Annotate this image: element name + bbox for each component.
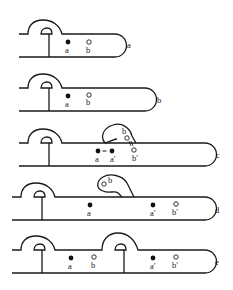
point-b-open bbox=[92, 255, 96, 259]
point-label-a: a bbox=[65, 99, 69, 109]
point-label-a-prime: a′ bbox=[150, 261, 156, 271]
point-label-a: a bbox=[68, 261, 72, 271]
point-a-prime-filled bbox=[151, 203, 156, 208]
panel-label-d: d bbox=[215, 205, 220, 215]
point-b-open bbox=[87, 40, 91, 44]
panel-c: a = a′ b b′ c bbox=[19, 124, 220, 166]
panel-label-b: b bbox=[157, 95, 161, 105]
panel-a: a b a bbox=[19, 20, 131, 57]
point-a-filled bbox=[66, 94, 71, 99]
point-a-prime-filled bbox=[110, 149, 115, 154]
panel-d: b a a′ b′ d bbox=[12, 175, 220, 220]
replication-fork-diagram: a b a a b b a = a′ b b′ c bbox=[0, 0, 233, 290]
point-label-b: b bbox=[86, 45, 90, 55]
point-label-a-prime: a′ bbox=[150, 208, 156, 218]
panel-b: a b b bbox=[19, 74, 161, 111]
point-label-b: b bbox=[108, 175, 112, 185]
point-a-filled bbox=[66, 40, 71, 45]
point-label-a: a bbox=[95, 154, 99, 164]
point-a-filled bbox=[88, 203, 93, 208]
point-a-prime-filled bbox=[151, 256, 156, 261]
point-b-open bbox=[102, 182, 106, 186]
point-b-prime-open bbox=[174, 255, 178, 259]
point-b-prime-open bbox=[132, 148, 136, 152]
point-label-b-prime: b′ bbox=[132, 153, 138, 163]
point-label-b-prime: b′ bbox=[172, 207, 178, 217]
panel-e: a b a′ b′ e bbox=[12, 233, 219, 273]
point-label-b: b bbox=[122, 126, 126, 136]
point-label-a: a bbox=[87, 208, 91, 218]
panel-label-a: a bbox=[127, 40, 131, 50]
point-label-b: b bbox=[91, 260, 95, 270]
point-b-open bbox=[125, 136, 129, 140]
point-label-a-prime: a′ bbox=[110, 154, 116, 164]
point-label-b: b bbox=[86, 97, 90, 107]
point-b-prime-open bbox=[174, 202, 178, 206]
point-a-filled bbox=[96, 149, 101, 154]
panel-label-e: e bbox=[215, 257, 219, 267]
link-symbol: = bbox=[102, 146, 107, 156]
point-label-b-prime: b′ bbox=[172, 260, 178, 270]
point-label-a: a bbox=[65, 45, 69, 55]
panel-label-c: c bbox=[216, 150, 220, 160]
point-a-filled bbox=[69, 256, 74, 261]
